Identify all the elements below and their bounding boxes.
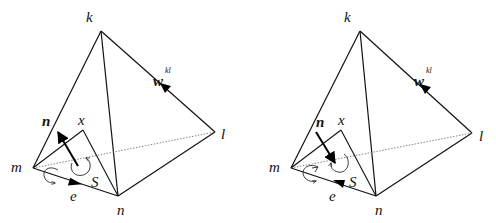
vertex-label-l: l	[221, 126, 225, 142]
w-label: w	[153, 73, 164, 89]
vertex-label-l: l	[479, 128, 483, 144]
edge-curl-tick-icon	[312, 167, 318, 172]
left-tetrahedron: k l m n x n e S w kl	[11, 9, 225, 218]
point-label-x: x	[77, 112, 85, 128]
normal-label-n: n	[42, 113, 50, 129]
normal-vector-arrow-icon	[58, 132, 78, 166]
right-tetrahedron: k l m n x n e S w kl	[269, 9, 483, 218]
w-label: w	[414, 73, 425, 89]
edge-label-e: e	[329, 188, 336, 204]
e-arrow-icon	[333, 180, 345, 188]
edge-k-n	[101, 31, 118, 196]
w-superscript: kl	[165, 66, 172, 75]
surface-label-S: S	[349, 174, 357, 190]
vertex-label-k: k	[344, 9, 351, 25]
w-superscript: kl	[426, 66, 433, 75]
normal-label-n: n	[316, 114, 324, 130]
e-arrow-icon	[68, 178, 82, 187]
vertex-label-n: n	[117, 202, 125, 218]
edge-label-e: e	[70, 188, 77, 204]
edge-curl-icon	[303, 165, 318, 181]
circulation-curl-icon	[331, 154, 348, 172]
vertex-label-m: m	[269, 159, 280, 175]
tetrahedron-figure: k l m n x n e S w kl	[0, 0, 496, 223]
vertex-label-m: m	[11, 159, 22, 175]
vertex-label-k: k	[86, 9, 93, 25]
point-label-x: x	[337, 112, 345, 128]
vertex-label-n: n	[375, 202, 383, 218]
surface-label-S: S	[91, 174, 99, 190]
